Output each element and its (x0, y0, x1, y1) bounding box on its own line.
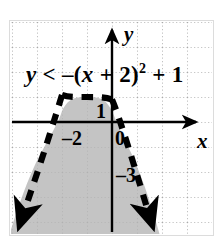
x-axis-label: x (197, 131, 208, 152)
inequality-lhs: y (26, 62, 37, 87)
parabola-boundary-vertex (62, 95, 112, 100)
tick-label-vertex-x: –2 (62, 128, 82, 148)
graph-figure: y < –(x + 2)2 + 1 y x 1 –2 0 –3 (0, 0, 224, 247)
inequality-expression: y < –(x + 2)2 + 1 (26, 62, 184, 86)
tick-label-y-intercept: –3 (116, 165, 136, 185)
inequality-rhs-close: ) (131, 62, 139, 87)
inequality-tail-constant: 1 (172, 62, 184, 87)
y-axis-label: y (124, 24, 133, 45)
inequality-tail-operator: + (152, 62, 165, 87)
inequality-rhs-variable: x (82, 62, 94, 87)
tick-label-vertex-y: 1 (96, 101, 106, 121)
inequality-rhs-prefix: –( (62, 62, 82, 87)
inequality-rhs-inner-constant: 2 (119, 62, 131, 87)
tick-label-origin: 0 (115, 128, 125, 148)
inequality-rhs-plus: + (100, 62, 113, 87)
coordinate-plane (0, 0, 224, 247)
inequality-relation: < (43, 62, 56, 87)
